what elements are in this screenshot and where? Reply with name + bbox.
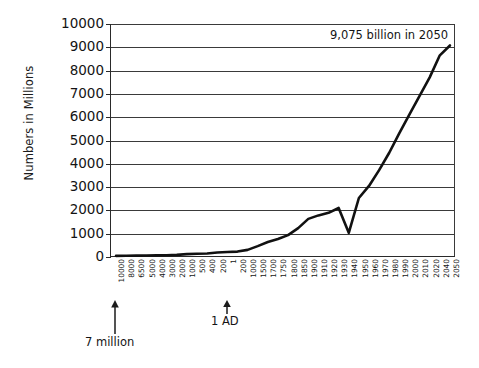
x-tick-label: 500 xyxy=(199,259,206,273)
x-tick-label: 1000 xyxy=(250,259,257,278)
x-tick-label: 1990 xyxy=(402,259,409,278)
y-tick-label: 2000 xyxy=(70,204,104,218)
y-tick-label: 1000 xyxy=(70,227,104,241)
y-axis-tick-labels: 1000090008000700060005000400030002000100… xyxy=(36,24,104,257)
x-tick-label: 2000 xyxy=(412,259,419,278)
x-tick-label: 1900 xyxy=(311,259,318,278)
y-tick-label: 10000 xyxy=(61,17,104,31)
x-tick-label: 2020 xyxy=(433,259,440,278)
x-tick-label: 1000 xyxy=(189,259,196,278)
x-tick-label: 1750 xyxy=(280,259,287,278)
x-tick-label: 200 xyxy=(220,259,227,273)
x-tick-label: 2040 xyxy=(443,259,450,278)
x-tick-label: 4000 xyxy=(159,259,166,278)
x-tick-label: 1920 xyxy=(331,259,338,278)
start-callout-arrow-icon xyxy=(108,300,122,334)
x-tick-label: 1960 xyxy=(372,259,379,278)
x-tick-label: 2000 xyxy=(179,259,186,278)
y-tick-label: 0 xyxy=(95,250,104,264)
x-tick-label: 1500 xyxy=(260,259,267,278)
y-tick-label: 5000 xyxy=(70,134,104,148)
x-tick-label: 1700 xyxy=(270,259,277,278)
x-tick-label: 1850 xyxy=(301,259,308,278)
y-tick-label: 6000 xyxy=(70,110,104,124)
y-tick-label: 3000 xyxy=(70,180,104,194)
y-tick-label: 4000 xyxy=(70,157,104,171)
x-tick-label: 1930 xyxy=(341,259,348,278)
x-tick-label: 1970 xyxy=(382,259,389,278)
y-tick-label: 7000 xyxy=(70,87,104,101)
x-tick-label: 10000 xyxy=(118,259,125,283)
x-tick-label: 6500 xyxy=(138,259,145,278)
x-tick-label: 1950 xyxy=(362,259,369,278)
x-tick-label: 1800 xyxy=(291,259,298,278)
x-tick-label: 200 xyxy=(240,259,247,273)
y-tick-mark xyxy=(106,257,111,258)
x-axis-tick-labels: 1000080006500500040003000200010005004002… xyxy=(110,259,455,301)
x-tick-label: 8000 xyxy=(128,259,135,278)
start-callout-label: 7 million xyxy=(85,335,134,349)
population-line-series xyxy=(111,24,455,256)
x-tick-label: 1910 xyxy=(321,259,328,278)
x-tick-label: 5000 xyxy=(149,259,156,278)
x-tick-label: 2010 xyxy=(422,259,429,278)
x-tick-label: 1940 xyxy=(351,259,358,278)
x-tick-label: 2050 xyxy=(453,259,460,278)
one-ad-callout-label: 1 AD xyxy=(211,314,239,328)
x-tick-label: 1 xyxy=(230,259,237,264)
x-tick-label: 3000 xyxy=(169,259,176,278)
population-growth-chart: Numbers in Millions 10000900080007000600… xyxy=(0,0,479,368)
peak-value-annotation: 9,075 billion in 2050 xyxy=(330,28,448,42)
x-tick-label: 1980 xyxy=(392,259,399,278)
one-ad-callout-arrow-icon xyxy=(220,300,234,314)
x-tick-label: 400 xyxy=(209,259,216,273)
y-tick-label: 8000 xyxy=(70,64,104,78)
plot-area xyxy=(110,24,455,257)
y-tick-label: 9000 xyxy=(70,41,104,55)
y-axis-title: Numbers in Millions xyxy=(22,33,36,213)
